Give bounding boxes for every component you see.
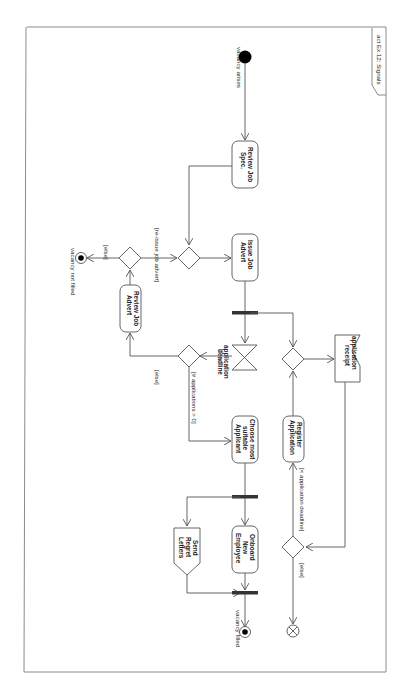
action-label: Employee xyxy=(234,533,242,564)
action-label: Advert xyxy=(126,295,133,316)
guard-else-2: [else] xyxy=(154,370,161,385)
frame-title: act Ex.12: Signals xyxy=(376,35,383,85)
activity-diagram: act Ex.12: Signals vacancy arises Review… xyxy=(0,0,406,699)
action-label: Advert xyxy=(240,242,247,263)
join-bar xyxy=(232,591,258,595)
action-label: Review Job xyxy=(133,291,140,326)
send-signal-label: Letters xyxy=(178,537,185,559)
action-label: Review Job xyxy=(247,147,254,182)
guard-else-3: [else] xyxy=(299,563,306,578)
diagram-frame xyxy=(24,27,386,672)
merge-node-receipt xyxy=(282,348,304,370)
action-label: Applicant xyxy=(234,424,242,454)
initial-label: vacancy arises xyxy=(236,47,243,88)
merge-node xyxy=(178,247,200,269)
action-label: New xyxy=(242,541,249,554)
time-event-label: deadline xyxy=(217,349,224,375)
final-label-filled: vacancy filled xyxy=(235,610,242,648)
action-label: Onboard xyxy=(249,534,256,561)
action-label: Spec. xyxy=(239,152,247,169)
action-label: Application xyxy=(288,420,296,455)
guard-before-deadline: [< application deadline] xyxy=(299,468,306,532)
decision-reissue xyxy=(119,247,141,269)
guard-reissue: [re-issue job advert] xyxy=(154,228,161,283)
guard-apps-gt-0: [# applications > 0] xyxy=(191,372,198,424)
action-label: suitable xyxy=(242,426,249,451)
guard-else-1: [else] xyxy=(103,245,110,260)
action-label: Choose most xyxy=(249,419,256,460)
accept-event-label: receipt xyxy=(343,345,351,367)
decision-applications xyxy=(178,345,200,367)
send-signal-label: Send xyxy=(192,540,199,556)
time-event-deadline xyxy=(232,345,257,370)
decision-deadline xyxy=(282,536,304,558)
final-label-not-filled: vacancy not filled xyxy=(70,248,77,296)
action-label: Issue Job xyxy=(247,240,254,270)
